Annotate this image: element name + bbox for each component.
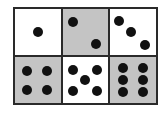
pip-dot-icon	[91, 39, 101, 49]
die-face-3	[110, 9, 156, 55]
die-face-6	[110, 57, 156, 103]
pip-dot-icon	[22, 66, 32, 76]
pip-dot-icon	[80, 75, 90, 85]
pip-dot-icon	[68, 17, 78, 27]
pip-dot-icon	[126, 27, 136, 37]
die-face-5	[63, 57, 109, 103]
pip-dot-icon	[42, 85, 52, 95]
pip-dot-icon	[118, 87, 128, 97]
pip-dot-icon	[118, 75, 128, 85]
pip-dot-icon	[92, 86, 102, 96]
dice-faces-grid	[13, 7, 158, 105]
pip-dot-icon	[118, 63, 128, 73]
pip-dot-icon	[68, 86, 78, 96]
pip-dot-icon	[138, 75, 148, 85]
pip-dot-icon	[114, 16, 124, 26]
pip-dot-icon	[138, 63, 148, 73]
pip-dot-icon	[42, 66, 52, 76]
die-face-1	[15, 9, 61, 55]
pip-dot-icon	[22, 85, 32, 95]
pip-dot-icon	[92, 65, 102, 75]
pip-dot-icon	[33, 27, 43, 37]
pip-dot-icon	[68, 65, 78, 75]
die-face-4	[15, 57, 61, 103]
pip-dot-icon	[138, 87, 148, 97]
pip-dot-icon	[140, 40, 150, 50]
die-face-2	[63, 9, 109, 55]
